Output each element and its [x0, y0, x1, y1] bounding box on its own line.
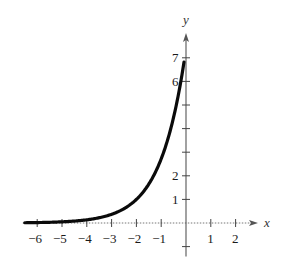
y-tick-label: 6	[172, 74, 179, 89]
x-tick-label: 2	[232, 231, 239, 246]
x-axis-arrow-icon	[249, 220, 258, 226]
exponential-curve	[25, 62, 184, 223]
y-tick-label: 7	[172, 50, 179, 65]
x-tick-label: −3	[103, 231, 117, 246]
x-tick-label: −4	[78, 231, 92, 246]
y-axis-label: y	[181, 12, 189, 27]
axes: x y	[23, 12, 270, 257]
x-tick-label: 1	[207, 231, 214, 246]
y-tick-label: 1	[172, 192, 179, 207]
x-axis-label: x	[263, 215, 270, 230]
x-tick-label: −5	[53, 231, 67, 246]
x-tick-label: −2	[127, 231, 141, 246]
y-tick-label: 2	[172, 168, 179, 183]
x-tick-label: −1	[152, 231, 166, 246]
exponential-graph: x y −6−5−4−3−2−112 1267	[0, 0, 286, 267]
x-tick-label: −6	[28, 231, 42, 246]
